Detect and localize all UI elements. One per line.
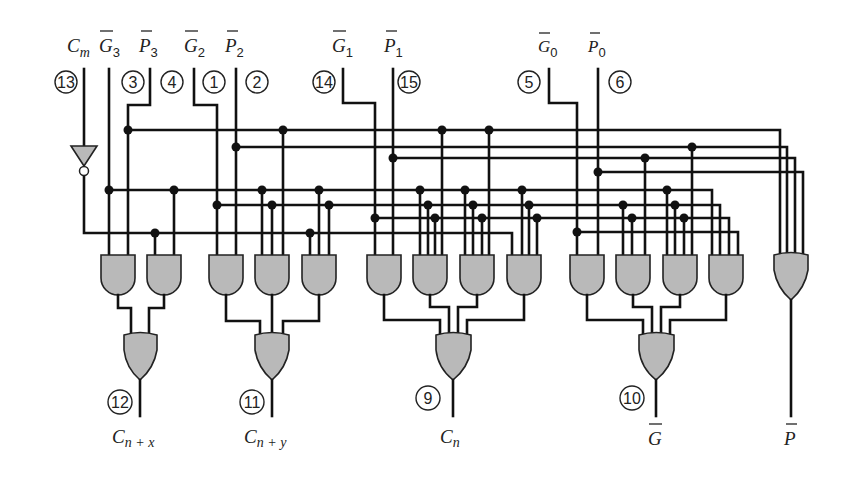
or-gate-cn xyxy=(436,333,471,381)
svg-text:G0: G0 xyxy=(538,37,558,60)
input-labels: Cm G3 P3 G2 P2 G1 P1 xyxy=(67,31,606,60)
pin-13: 13 xyxy=(55,71,77,93)
and-gate-13 xyxy=(709,255,743,295)
input-label-cm: Cm xyxy=(67,35,90,60)
and-gate-9 xyxy=(507,255,541,295)
svg-text:P3: P3 xyxy=(138,35,158,60)
or-gate-p xyxy=(774,253,808,301)
output-label-p: P xyxy=(783,424,797,449)
svg-text:P: P xyxy=(783,428,796,449)
svg-text:P0: P0 xyxy=(587,37,606,60)
input-label-g2: G2 xyxy=(184,31,205,60)
output-labels: Cn + x Cn + y Cn G P xyxy=(112,424,797,450)
pin-15: 15 xyxy=(398,71,420,93)
wiring xyxy=(84,69,803,255)
or-gate-cnx xyxy=(124,333,157,381)
and-gate-3 xyxy=(209,255,243,295)
and-gate-12 xyxy=(663,255,697,295)
or-gate-cny xyxy=(255,333,289,381)
svg-text:Cn: Cn xyxy=(440,426,460,450)
svg-text:10: 10 xyxy=(623,390,641,407)
svg-text:G1: G1 xyxy=(332,35,353,60)
svg-text:P1: P1 xyxy=(383,35,403,60)
and-gates xyxy=(101,255,743,295)
svg-text:Cm: Cm xyxy=(67,35,90,60)
svg-text:11: 11 xyxy=(244,394,261,411)
input-label-g0: G0 xyxy=(538,33,558,60)
and-gate-5 xyxy=(302,255,336,295)
svg-text:3: 3 xyxy=(129,74,138,91)
svg-text:13: 13 xyxy=(57,74,75,91)
svg-text:1: 1 xyxy=(210,74,219,91)
input-label-p0: P0 xyxy=(587,33,606,60)
pin-3: 3 xyxy=(122,71,144,93)
output-label-cn: Cn xyxy=(440,426,460,450)
pin-11: 11 xyxy=(240,390,264,414)
and-gate-4 xyxy=(255,255,289,295)
input-label-p3: P3 xyxy=(138,31,158,60)
and-gate-8 xyxy=(460,255,494,295)
svg-text:P2: P2 xyxy=(224,35,244,60)
output-label-g: G xyxy=(648,424,662,449)
pin-4: 4 xyxy=(161,71,183,93)
input-label-g3: G3 xyxy=(99,31,120,60)
svg-text:15: 15 xyxy=(400,74,418,91)
input-label-g1: G1 xyxy=(332,31,353,60)
svg-text:6: 6 xyxy=(616,74,625,91)
junction-dots xyxy=(105,126,697,238)
output-label-cny: Cn + y xyxy=(244,426,287,450)
pin-10: 10 xyxy=(620,386,644,410)
svg-text:2: 2 xyxy=(253,74,262,91)
svg-text:G3: G3 xyxy=(99,35,120,60)
pin-14: 14 xyxy=(313,71,335,93)
logic-diagram: Cm G3 P3 G2 P2 G1 P1 xyxy=(0,0,844,479)
pin-5: 5 xyxy=(518,71,540,93)
inverter-gate xyxy=(71,146,97,176)
or-gate-g xyxy=(639,333,674,381)
svg-text:9: 9 xyxy=(424,390,433,407)
pin-9: 9 xyxy=(416,386,440,410)
svg-text:Cn + x: Cn + x xyxy=(112,426,155,450)
and-gate-10 xyxy=(570,255,604,295)
pin-1: 1 xyxy=(203,71,225,93)
and-gate-11 xyxy=(616,255,650,295)
svg-text:5: 5 xyxy=(525,74,534,91)
svg-text:14: 14 xyxy=(315,74,333,91)
svg-text:G: G xyxy=(648,428,662,449)
svg-text:G2: G2 xyxy=(184,35,205,60)
svg-text:12: 12 xyxy=(111,394,129,411)
input-label-p2: P2 xyxy=(224,31,244,60)
or-input-wiring xyxy=(118,295,726,334)
output-pin-numbers: 12 11 9 10 xyxy=(108,386,644,414)
and-gate-2 xyxy=(147,255,181,295)
output-label-cnx: Cn + x xyxy=(112,426,155,450)
svg-text:4: 4 xyxy=(168,74,177,91)
and-gate-7 xyxy=(413,255,447,295)
svg-text:Cn + y: Cn + y xyxy=(244,426,287,450)
pin-12: 12 xyxy=(108,390,132,414)
and-gate-6 xyxy=(367,255,401,295)
and-gate-1 xyxy=(101,255,135,295)
input-label-p1: P1 xyxy=(383,31,403,60)
pin-6: 6 xyxy=(609,71,631,93)
pin-2: 2 xyxy=(246,71,268,93)
